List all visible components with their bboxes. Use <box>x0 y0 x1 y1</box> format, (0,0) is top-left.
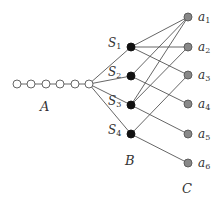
node-a3 <box>184 71 192 79</box>
node-p2 <box>27 80 35 88</box>
node-a6 <box>184 159 192 167</box>
edge-S2-a1 <box>131 17 188 76</box>
node-label-S2: S2 <box>108 66 121 82</box>
node-a5 <box>184 130 192 138</box>
node-S3 <box>127 101 135 109</box>
node-a4 <box>184 100 192 108</box>
node-label-a1: a1 <box>198 11 210 27</box>
node-label-a6: a6 <box>198 157 210 173</box>
node-a2 <box>184 43 192 51</box>
edge-S3-a1 <box>131 17 188 105</box>
edge-S4-a3 <box>131 75 188 134</box>
node-label-a5: a5 <box>198 128 210 144</box>
node-p1 <box>13 80 21 88</box>
node-label-a2: a2 <box>198 41 210 57</box>
node-label-a3: a3 <box>198 69 210 85</box>
node-label-S1: S1 <box>108 37 121 53</box>
group-label-b: B <box>125 155 135 167</box>
node-label-S4: S4 <box>108 124 121 140</box>
node-label-a4: a4 <box>198 98 210 114</box>
edge-S2-a4 <box>131 76 188 104</box>
node-S4 <box>127 130 135 138</box>
node-S1 <box>127 43 135 51</box>
node-label-S3: S3 <box>108 95 121 111</box>
node-p3 <box>42 80 50 88</box>
group-label-a: A <box>40 101 49 113</box>
edge-S3-a5 <box>131 105 188 134</box>
edge-S4-a6 <box>131 134 188 163</box>
edge-S3-a2 <box>131 47 188 105</box>
bipartite-graph-diagram: A B C S1S2S3S4a1a2a3a4a5a6 <box>0 0 220 204</box>
edge-S1-a1 <box>131 17 188 47</box>
group-label-c: C <box>182 183 192 195</box>
node-p4 <box>56 80 64 88</box>
node-a1 <box>184 13 192 21</box>
node-p5 <box>71 80 79 88</box>
node-S2 <box>127 72 135 80</box>
node-hub <box>85 80 93 88</box>
